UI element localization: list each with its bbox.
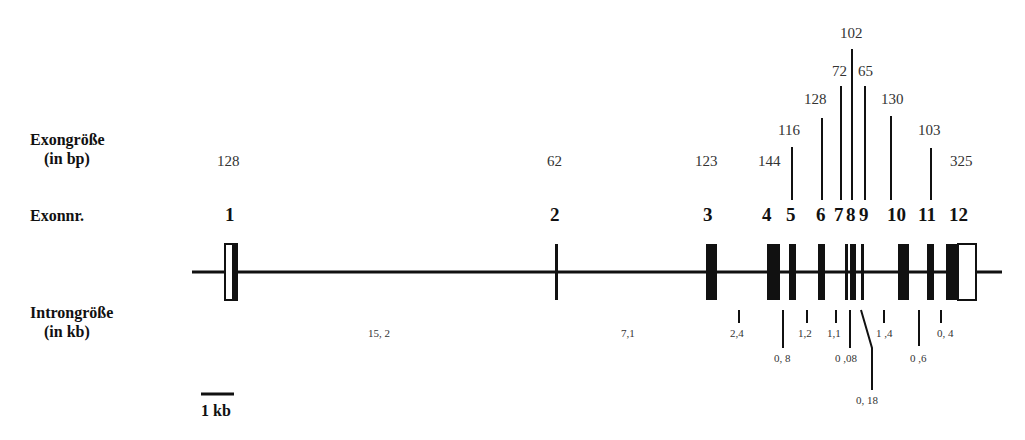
exon-3-box [706, 244, 717, 300]
exon-10-size: 130 [881, 91, 904, 108]
exon-9-size: 65 [858, 63, 873, 80]
intron-11-12-size: 0, 4 [937, 327, 954, 339]
exon-11-box [927, 244, 934, 300]
exon-7-box [845, 244, 848, 300]
intron-5-6-size: 1,2 [798, 327, 812, 339]
exon-9-box [861, 244, 864, 300]
intron-6-7-size: 1,1 [827, 327, 841, 339]
exon-3-number: 3 [703, 204, 713, 226]
intron-7-8-size: 0 ,08 [835, 352, 857, 364]
exon-5-size: 116 [778, 122, 800, 139]
exon-2-size: 62 [547, 153, 562, 170]
exon-1-number: 1 [225, 204, 235, 226]
exon-1-box [225, 244, 237, 300]
exon-6-box [818, 244, 825, 300]
exon-9-number: 9 [859, 204, 869, 226]
scale-bar-label: 1 kb [201, 401, 231, 420]
intron-3-4-size: 2,4 [730, 327, 744, 339]
exon-2-box [555, 244, 558, 300]
exon-7-number: 7 [834, 204, 844, 226]
intron-8-9-size: 0, 18 [856, 394, 878, 406]
intron-4-5-size: 0, 8 [774, 352, 791, 364]
exon-11-number: 11 [918, 204, 936, 226]
exon-10-box [898, 244, 909, 300]
exon-8-size: 102 [840, 25, 863, 42]
exon-4-box [767, 244, 780, 300]
exon-2-number: 2 [550, 204, 560, 226]
exon-6-size: 128 [804, 91, 827, 108]
exon-5-box [789, 244, 796, 300]
exon-3-size: 123 [695, 153, 718, 170]
exon-12-size: 325 [950, 153, 973, 170]
exon-12-number: 12 [949, 204, 968, 226]
exon-4-size: 144 [758, 153, 781, 170]
exon-1-size: 128 [217, 153, 240, 170]
exon-4-number: 4 [762, 204, 772, 226]
exon-7-size: 72 [832, 63, 847, 80]
exon-12-box [946, 244, 976, 300]
exon-6-number: 6 [816, 204, 826, 226]
intron-1-2-size: 15, 2 [368, 327, 390, 339]
intron-9-10-size: 1 ,4 [876, 327, 893, 339]
intron-10-11-size: 0 ,6 [910, 352, 927, 364]
intron-2-3-size: 7,1 [621, 327, 635, 339]
exon-8-box [850, 244, 856, 300]
intron-8-9-leader [861, 310, 872, 390]
exon-5-number: 5 [786, 204, 796, 226]
exon-8-number: 8 [846, 204, 856, 226]
exon-10-number: 10 [887, 204, 906, 226]
exon-11-size: 103 [918, 122, 941, 139]
